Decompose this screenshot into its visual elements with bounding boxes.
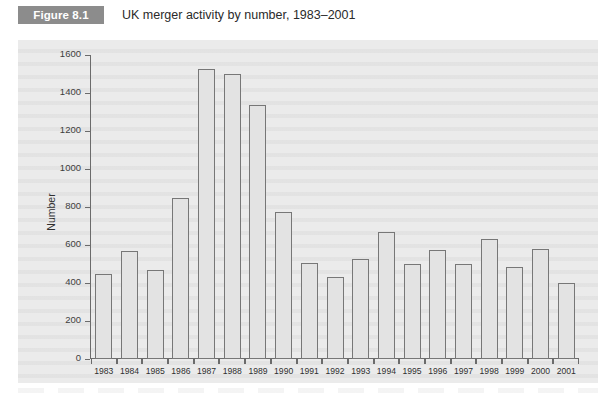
x-axis-tick [194, 359, 195, 364]
y-axis-tick: 200 [85, 321, 90, 322]
x-axis-tick-label: 1996 [428, 366, 447, 376]
y-axis-tick-label: 600 [65, 238, 81, 249]
page-bleed-bottom [18, 388, 598, 393]
bar [172, 198, 189, 359]
bar [121, 251, 138, 359]
x-axis-tick [348, 359, 349, 364]
x-axis-tick-slot: 1985 [142, 359, 168, 381]
x-axis-tick [578, 359, 579, 364]
y-axis-tick-label: 0 [76, 352, 81, 363]
bar-slot [528, 55, 554, 359]
x-axis-tick [425, 359, 426, 364]
x-axis-tick-label: 1990 [274, 366, 293, 376]
bar [532, 249, 549, 359]
x-axis-tick [117, 359, 118, 364]
x-axis-tick [168, 359, 169, 364]
x-axis-tick-slot: 1996 [425, 359, 451, 381]
bar-slot [142, 55, 168, 359]
figure-title: UK merger activity by number, 1983–2001 [122, 8, 355, 22]
x-axis-tick-label: 1995 [403, 366, 422, 376]
bar [378, 232, 395, 359]
x-axis-tick-label: 1997 [454, 366, 473, 376]
y-axis-tick-label: 1200 [60, 124, 81, 135]
bar-slot [168, 55, 194, 359]
x-axis-tick-slot: 1989 [245, 359, 271, 381]
bar-slot [194, 55, 220, 359]
x-axis-tick [297, 359, 298, 364]
x-axis-tick-slot: 2000 [528, 359, 554, 381]
x-axis-tick-slot: 1986 [168, 359, 194, 381]
x-axis-tick [219, 359, 220, 364]
x-axis-tick-slot: 1988 [219, 359, 245, 381]
x-axis-tick-slot: 1983 [91, 359, 117, 381]
x-axis-tick-label: 2000 [531, 366, 550, 376]
x-axis-tick [502, 359, 503, 364]
y-axis-tick: 1400 [85, 93, 90, 94]
y-axis-label: Number [45, 193, 57, 230]
y-axis-tick: 600 [85, 245, 90, 246]
x-axis-tick-label: 1994 [377, 366, 396, 376]
x-axis-tick-slot: 1992 [322, 359, 348, 381]
x-axis-tick [476, 359, 477, 364]
x-axis-tick-label: 1983 [94, 366, 113, 376]
x-axis-tick [142, 359, 143, 364]
bar [481, 239, 498, 359]
bar-slot [374, 55, 400, 359]
x-axis-tick-label: 1987 [197, 366, 216, 376]
bar-slot [451, 55, 477, 359]
bar-slot [271, 55, 297, 359]
bar [249, 105, 266, 359]
x-axis-tick-label: 1993 [351, 366, 370, 376]
bar [352, 259, 369, 359]
y-axis-tick-label: 800 [65, 200, 81, 211]
figure-number-badge: Figure 8.1 [18, 6, 104, 24]
x-axis-tick-slot: 2001 [553, 359, 579, 381]
x-axis-tick [399, 359, 400, 364]
bar-slot [245, 55, 271, 359]
x-axis-tick [91, 359, 92, 364]
x-axis-tick-label: 1989 [248, 366, 267, 376]
y-axis-tick: 0 [85, 359, 90, 360]
figure-header: Figure 8.1 UK merger activity by number,… [0, 0, 615, 30]
x-axis-tick-slot: 1995 [399, 359, 425, 381]
bar-slot [476, 55, 502, 359]
y-axis-tick: 400 [85, 283, 90, 284]
x-axis-tick [271, 359, 272, 364]
x-axis-tick-label: 1988 [223, 366, 242, 376]
x-axis-tick-slot: 1997 [451, 359, 477, 381]
bar [327, 277, 344, 359]
y-axis-tick: 1200 [85, 131, 90, 132]
bar [429, 250, 446, 359]
bar-slot [297, 55, 323, 359]
chart-panel: Number 02004006008001000120014001600 198… [18, 40, 598, 383]
x-axis-tick-slot: 1998 [476, 359, 502, 381]
bar-slot [425, 55, 451, 359]
bar-slot [553, 55, 579, 359]
y-axis-tick-label: 400 [65, 276, 81, 287]
bar [558, 283, 575, 359]
y-axis-tick-label: 1000 [60, 162, 81, 173]
x-axis-tick-label: 1985 [146, 366, 165, 376]
bar [198, 69, 215, 359]
y-axis-tick: 800 [85, 207, 90, 208]
x-axis-tick-slot: 1984 [117, 359, 143, 381]
bar [275, 212, 292, 359]
x-axis-ticks: 1983198419851986198719881989199019911992… [91, 359, 579, 381]
x-axis-tick-slot: 1991 [297, 359, 323, 381]
x-axis-tick-label: 1986 [171, 366, 190, 376]
bar-slot [399, 55, 425, 359]
bar [224, 74, 241, 359]
x-axis-tick-label: 1991 [300, 366, 319, 376]
bar-slot [117, 55, 143, 359]
x-axis-tick-slot: 1999 [502, 359, 528, 381]
x-axis-tick-slot: 1987 [194, 359, 220, 381]
x-axis-tick-slot: 1990 [271, 359, 297, 381]
x-axis-tick [245, 359, 246, 364]
x-axis-tick [451, 359, 452, 364]
x-axis-tick-slot: 1994 [374, 359, 400, 381]
bar [95, 274, 112, 359]
x-axis-tick [374, 359, 375, 364]
bar-slot [322, 55, 348, 359]
x-axis-tick-label: 1998 [480, 366, 499, 376]
plot-area: 02004006008001000120014001600 1983198419… [90, 55, 579, 359]
